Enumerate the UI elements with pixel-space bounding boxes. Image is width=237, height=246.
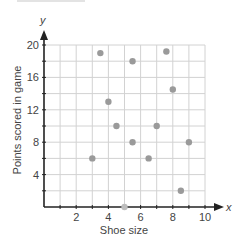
data-point xyxy=(89,155,95,161)
x-axis-arrow-icon xyxy=(214,203,224,211)
y-tick-label: 20 xyxy=(27,39,39,51)
x-tick-label: 2 xyxy=(73,211,79,223)
x-axis-letter: x xyxy=(225,201,232,213)
tick-labels: 24681048121620 xyxy=(27,39,211,223)
data-point xyxy=(170,86,176,92)
x-tick-label: 8 xyxy=(170,211,176,223)
axes xyxy=(40,30,224,211)
scatter-chart: 24681048121620 Shoe size Points scored i… xyxy=(0,0,237,246)
data-point xyxy=(154,123,160,129)
grid-lines xyxy=(44,45,205,207)
y-axis-arrow-icon xyxy=(40,30,48,40)
data-point xyxy=(113,123,119,129)
data-point xyxy=(129,139,135,145)
y-tick-label: 4 xyxy=(33,169,39,181)
y-tick-label: 12 xyxy=(27,104,39,116)
y-axis-title: Points scored in game xyxy=(11,66,23,175)
tick-marks xyxy=(42,45,205,209)
data-point xyxy=(129,58,135,64)
data-point xyxy=(105,99,111,105)
x-tick-label: 6 xyxy=(138,211,144,223)
y-tick-label: 8 xyxy=(33,136,39,148)
data-point xyxy=(178,188,184,194)
x-tick-label: 10 xyxy=(199,211,211,223)
y-tick-label: 16 xyxy=(27,71,39,83)
y-axis-letter: y xyxy=(39,14,47,26)
data-point xyxy=(97,50,103,56)
data-point xyxy=(186,139,192,145)
x-axis-title: Shoe size xyxy=(100,224,148,236)
x-tick-label: 4 xyxy=(105,211,111,223)
data-point xyxy=(145,155,151,161)
data-point xyxy=(121,204,127,210)
data-point xyxy=(163,48,169,54)
